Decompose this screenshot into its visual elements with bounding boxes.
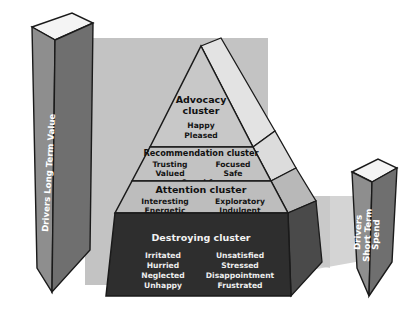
tier-destroying-title: Destroying cluster [151,232,250,243]
tier-attention-left-word-1: Interesting [141,197,189,206]
tier-advocacy-title-line1: Advocacy [176,94,228,105]
tier-advocacy-word-1: Happy [187,121,214,130]
tier-recommendation-right-word-1: Focused [215,160,250,169]
tier-destroying-left-word-3: Neglected [141,271,184,280]
tier-attention-title: Attention cluster [155,184,246,195]
tier-advocacy-title-line2: cluster [183,105,220,116]
tier-destroying-right-word-4: Frustrated [217,281,262,290]
tier-recommendation-left-word-1: Trusting [152,160,187,169]
tier-destroying-right-word-3: Disappointment [206,271,275,280]
pyramid-diagram: Drivers Long Term Value Advocacy cluster… [0,0,420,311]
tier-destroying[interactable]: Destroying cluster Irritated Hurried Neg… [106,213,291,296]
tier-destroying-left-word-1: Irritated [145,251,181,260]
tier-recommendation-title: Recommendation cluster [143,148,259,158]
left-driver-panel[interactable]: Drivers Long Term Value [32,13,93,292]
tier-recommendation-left-word-2: Valued [155,169,184,178]
tier-destroying-right-word-2: Stressed [221,261,259,270]
tier-destroying-right-word-1: Unsatisfied [216,251,264,260]
tier-destroying-left-word-2: Hurried [147,261,179,270]
right-panel-label-line3: Spend [370,219,382,250]
tier-attention-right-word-1: Exploratory [215,197,265,206]
right-driver-panel[interactable]: Drivers Short Term Spend [352,159,397,296]
diagram-canvas: Drivers Long Term Value Advocacy cluster… [0,0,420,311]
tier-destroying-left-word-4: Unhappy [144,281,182,290]
tier-advocacy-word-2: Pleased [184,131,218,140]
tier-recommendation-right-word-2: Safe [223,169,242,178]
